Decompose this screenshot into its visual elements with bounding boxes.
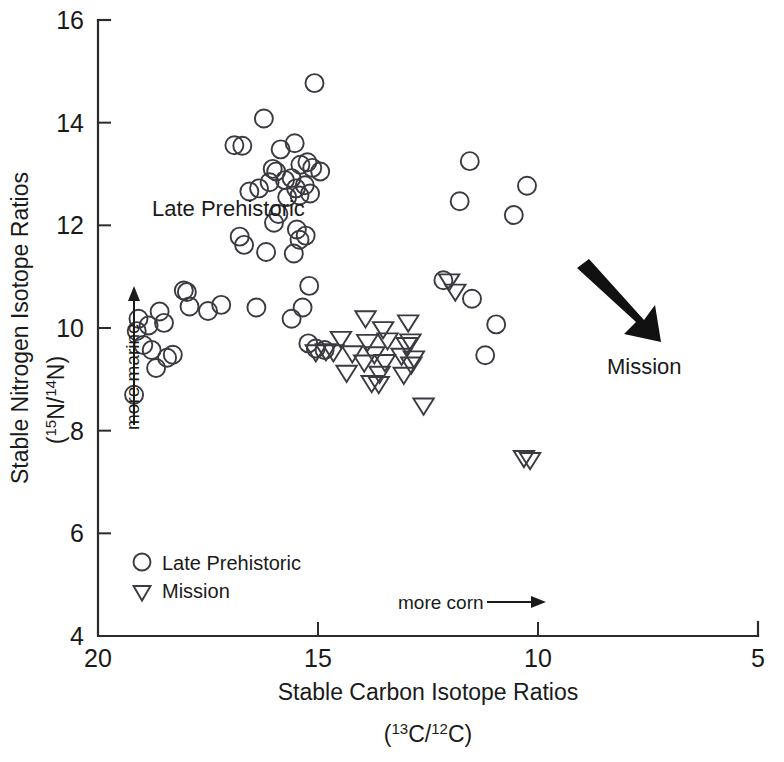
data-point-circle <box>518 177 536 195</box>
more-corn-arrow-icon <box>487 596 546 608</box>
y-tick-label: 4 <box>70 622 84 650</box>
data-point-circle <box>505 206 523 224</box>
data-point-circle <box>300 277 318 295</box>
axis-lines <box>98 20 758 636</box>
y-axis-ticks: 46810121416 <box>56 6 111 650</box>
y-sub-close: ) <box>43 356 69 364</box>
data-point-circle <box>461 152 479 170</box>
data-point-circle <box>255 110 273 128</box>
mission-group-label: Mission <box>607 354 682 379</box>
more-marine-label: more marine <box>122 323 143 430</box>
legend-label-mission: Mission <box>162 580 230 602</box>
data-point-circle <box>257 243 275 261</box>
data-point-circle <box>147 359 165 377</box>
trend-arrow-icon <box>577 259 661 342</box>
data-point-circle <box>291 156 309 174</box>
x-sub-elem1: C/ <box>408 721 432 747</box>
y-sub-sup2: 14 <box>42 380 59 397</box>
data-point-circle <box>247 298 265 316</box>
data-point-triangle <box>394 368 414 384</box>
data-point-circle <box>476 346 494 364</box>
data-point-circle <box>283 310 301 328</box>
data-point-triangle <box>361 376 381 392</box>
x-sub-elem2: C <box>448 721 465 747</box>
y-tick-label: 6 <box>70 519 84 547</box>
x-axis-subtitle: (13C/12C) <box>384 720 472 748</box>
data-point-circle <box>487 315 505 333</box>
data-point-triangle <box>355 311 375 327</box>
data-point-triangle <box>398 315 418 331</box>
data-point-circle <box>305 74 323 92</box>
data-point-circle <box>158 349 176 367</box>
legend: Late Prehistoric Mission <box>134 552 301 602</box>
data-point-circle <box>463 290 481 308</box>
y-sub-elem2: N <box>43 364 69 381</box>
x-tick-label: 10 <box>524 644 552 672</box>
plot-canvas: 46810121416 2015105 Late Prehistoric Mis… <box>0 0 784 762</box>
x-sub-sup2: 12 <box>431 720 448 737</box>
x-tick-label: 20 <box>84 644 112 672</box>
y-sub-elem1: N/ <box>43 396 69 420</box>
legend-label-late-prehistoric: Late Prehistoric <box>162 552 301 574</box>
x-axis-ticks: 2015105 <box>84 622 765 672</box>
series-mission <box>306 274 541 469</box>
axes-group <box>98 20 758 636</box>
more-corn-label: more corn <box>398 592 484 613</box>
late-prehistoric-group-label: Late Prehistoric <box>152 196 305 221</box>
y-tick-label: 16 <box>56 6 84 34</box>
legend-marker-triangle <box>134 586 151 601</box>
y-tick-label: 8 <box>70 417 84 445</box>
x-sub-close: ) <box>465 721 473 747</box>
x-sub-sup1: 13 <box>392 720 409 737</box>
y-tick-label: 10 <box>56 314 84 342</box>
y-tick-label: 14 <box>56 109 84 137</box>
x-axis-title: Stable Carbon Isotope Ratios <box>278 679 578 705</box>
y-sub-sup1: 15 <box>42 420 59 437</box>
y-tick-label: 12 <box>56 211 84 239</box>
data-point-circle <box>250 179 268 197</box>
y-axis-title: Stable Nitrogen Isotope Ratios <box>7 172 33 484</box>
y-axis-subtitle: (15N/14N) <box>42 356 70 444</box>
data-point-circle <box>451 192 469 210</box>
data-point-circle <box>294 298 312 316</box>
data-point-triangle <box>336 366 356 382</box>
x-tick-label: 15 <box>304 644 332 672</box>
data-point-triangle <box>413 399 433 415</box>
scatter-plot-figure: 46810121416 2015105 Late Prehistoric Mis… <box>0 0 784 762</box>
data-point-triangle <box>342 346 362 362</box>
x-tick-label: 5 <box>751 644 765 672</box>
legend-marker-circle <box>134 554 151 571</box>
